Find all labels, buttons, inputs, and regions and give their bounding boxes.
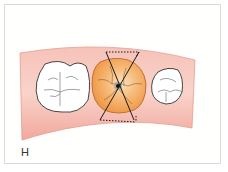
dental-illustration <box>0 0 228 172</box>
center-tooth <box>92 58 146 113</box>
right-premolar <box>152 68 183 104</box>
left-molar <box>36 61 89 112</box>
panel-label: H <box>21 146 29 158</box>
